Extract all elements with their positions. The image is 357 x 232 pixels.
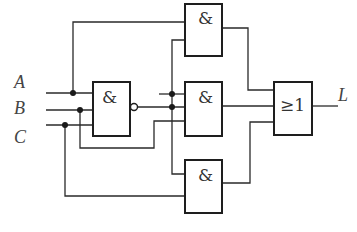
- and-bottom-symbol: &: [198, 165, 213, 185]
- or-symbol: ≥1: [280, 95, 305, 115]
- wire-bottom-and-out: [222, 122, 274, 183]
- label-a: A: [13, 72, 26, 92]
- and-mid-symbol: &: [198, 87, 213, 107]
- and-top-symbol: &: [198, 8, 213, 28]
- wire-top-and-out: [222, 28, 274, 90]
- junction-b: [77, 107, 83, 113]
- label-b: B: [14, 98, 25, 118]
- junction-nand-out: [169, 104, 175, 110]
- junction-a-mid: [169, 91, 175, 97]
- inverter-bubble: [131, 104, 138, 111]
- input-wires: [46, 93, 93, 125]
- junction-a: [70, 90, 76, 96]
- label-c: C: [14, 127, 27, 147]
- junction-c: [62, 122, 68, 128]
- logic-circuit: & & & & ≥1 A B C L: [0, 0, 357, 232]
- nand-symbol: &: [102, 87, 117, 107]
- label-l: L: [337, 85, 348, 105]
